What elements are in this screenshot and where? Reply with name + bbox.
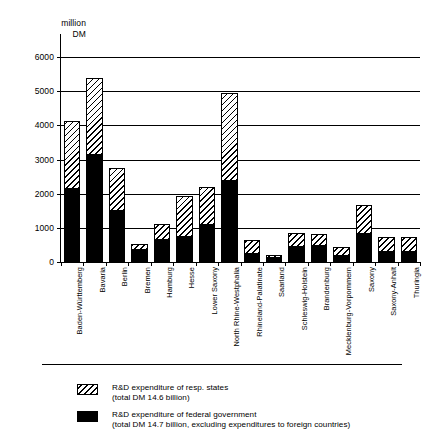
x-tick-mark (61, 262, 62, 266)
y-tick-label: 3000 (35, 155, 54, 165)
bar-segment-state[interactable] (333, 247, 349, 256)
legend-item[interactable]: R&D expenditure of federal government(to… (77, 410, 422, 430)
bar-segment-federal[interactable] (288, 247, 304, 262)
legend-label: R&D expenditure of federal government(to… (112, 410, 350, 430)
stacked-bar[interactable] (176, 196, 192, 262)
bar-segment-federal[interactable] (64, 189, 80, 262)
bar-segment-state[interactable] (221, 93, 237, 182)
bar-slot[interactable] (263, 57, 285, 262)
stacked-bar[interactable] (86, 78, 102, 263)
bar-slot[interactable] (151, 57, 173, 262)
stacked-bar[interactable] (333, 247, 349, 262)
stacked-bar[interactable] (288, 233, 304, 262)
stacked-bar[interactable] (356, 205, 372, 262)
bar-slot[interactable] (241, 57, 263, 262)
bar-segment-federal[interactable] (244, 254, 260, 262)
bar-slot[interactable] (83, 57, 105, 262)
x-axis-label: Schleswig-Holstein (300, 267, 309, 330)
stacked-bar[interactable] (311, 234, 327, 262)
x-tick-mark (128, 262, 129, 266)
bar-segment-federal[interactable] (401, 252, 417, 262)
stacked-bar[interactable] (154, 224, 170, 262)
bar-slot[interactable] (61, 57, 83, 262)
x-tick-mark (173, 262, 174, 266)
x-axis-label: Saxony-Anhalt (389, 267, 398, 316)
bar-segment-federal[interactable] (131, 250, 147, 262)
x-tick-mark (263, 262, 264, 266)
y-axis-unit-label: million DM (30, 18, 86, 39)
x-tick-mark (330, 262, 331, 266)
bar-segment-federal[interactable] (333, 256, 349, 262)
stacked-bar[interactable] (131, 244, 147, 262)
x-tick-mark (285, 262, 286, 266)
x-tick-mark (308, 262, 309, 266)
chart-legend: R&D expenditure of resp. states(total DM… (77, 383, 422, 437)
bar-slot[interactable] (398, 57, 420, 262)
bar-segment-state[interactable] (378, 237, 394, 252)
bar-slot[interactable] (106, 57, 128, 262)
bar-segment-federal[interactable] (176, 237, 192, 262)
x-tick-mark (106, 262, 107, 266)
bar-segment-state[interactable] (288, 233, 304, 247)
x-axis-label: Lower Saxony (210, 267, 219, 314)
bar-slot[interactable] (196, 57, 218, 262)
y-tick-label: 0 (49, 257, 54, 267)
bar-segment-state[interactable] (401, 237, 417, 252)
x-axis-label: Saxony (367, 267, 376, 292)
bars-group (61, 57, 420, 262)
bar-segment-state[interactable] (199, 187, 215, 225)
y-axis-unit-line2: DM (30, 29, 86, 40)
bar-segment-federal[interactable] (311, 246, 327, 262)
bar-segment-federal[interactable] (199, 225, 215, 262)
stacked-bar[interactable] (221, 93, 237, 262)
y-tick-label: 4000 (35, 120, 54, 130)
x-tick-mark (353, 262, 354, 266)
y-tick-label: 6000 (35, 52, 54, 62)
legend-label-sub: (total DM 14.7 billion, excluding expend… (112, 420, 350, 430)
bar-segment-state[interactable] (244, 240, 260, 255)
x-axis-label: Berlin (120, 267, 129, 286)
bar-slot[interactable] (128, 57, 150, 262)
bar-segment-state[interactable] (109, 168, 125, 212)
x-axis-label: Saarland (277, 267, 286, 297)
x-axis-label: Baden-Württemberg (75, 267, 84, 334)
y-axis-unit-line1: million (30, 18, 86, 29)
bar-slot[interactable] (218, 57, 240, 262)
bar-slot[interactable] (173, 57, 195, 262)
legend-item[interactable]: R&D expenditure of resp. states(total DM… (77, 383, 422, 403)
bar-slot[interactable] (375, 57, 397, 262)
bar-segment-state[interactable] (154, 224, 170, 240)
x-tick-mark (241, 262, 242, 266)
bar-slot[interactable] (353, 57, 375, 262)
bar-slot[interactable] (285, 57, 307, 262)
bar-segment-state[interactable] (64, 121, 80, 189)
bar-segment-federal[interactable] (154, 240, 170, 262)
bar-segment-federal[interactable] (266, 258, 282, 262)
x-tick-mark (83, 262, 84, 266)
bar-segment-state[interactable] (86, 78, 102, 156)
bar-slot[interactable] (308, 57, 330, 262)
legend-label: R&D expenditure of resp. states(total DM… (112, 383, 228, 403)
stacked-bar[interactable] (378, 237, 394, 262)
stacked-bar[interactable] (109, 168, 125, 262)
bar-segment-federal[interactable] (221, 181, 237, 262)
x-axis-label: Bremen (143, 267, 152, 293)
stacked-bar[interactable] (244, 240, 260, 262)
solid-black-swatch (77, 411, 98, 422)
bar-slot[interactable] (330, 57, 352, 262)
bar-segment-federal[interactable] (86, 155, 102, 262)
x-tick-mark (218, 262, 219, 266)
bar-segment-state[interactable] (311, 234, 327, 246)
bar-segment-state[interactable] (356, 205, 372, 234)
bar-segment-federal[interactable] (356, 234, 372, 262)
bar-segment-state[interactable] (176, 196, 192, 236)
bar-segment-federal[interactable] (109, 211, 125, 262)
bar-segment-federal[interactable] (378, 252, 394, 262)
stacked-bar[interactable] (401, 237, 417, 262)
stacked-bar[interactable] (199, 187, 215, 262)
legend-divider (42, 364, 402, 365)
x-axis-label: Rhineland-Palatinate (255, 267, 264, 337)
stacked-bar[interactable] (64, 121, 80, 262)
legend-label-sub: (total DM 14.6 billion) (112, 393, 228, 403)
stacked-bar[interactable] (266, 255, 282, 262)
